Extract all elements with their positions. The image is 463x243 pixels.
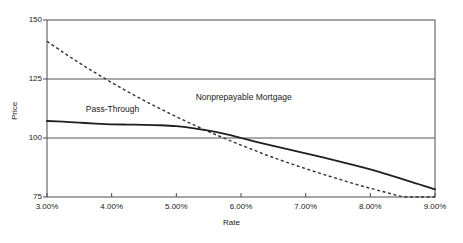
y-tick-label: 125 [18, 74, 42, 83]
x-tick-label: 9.00% [411, 202, 459, 211]
x-tick-marks [47, 193, 435, 197]
y-tick-marks [43, 20, 47, 197]
series-line-nonprepayable-mortgage [47, 41, 435, 197]
x-tick-label: 7.00% [282, 202, 330, 211]
series-annotation: Nonprepayable Mortgage [196, 92, 292, 102]
x-tick-label: 6.00% [217, 202, 265, 211]
y-tick-label: 100 [18, 133, 42, 142]
series-line-pass-through [47, 121, 435, 189]
x-tick-label: 5.00% [152, 202, 200, 211]
x-axis-title: Rate [0, 218, 463, 227]
y-axis-title: Price [10, 102, 19, 120]
y-tick-label: 75 [18, 192, 42, 201]
x-tick-label: 4.00% [88, 202, 136, 211]
y-tick-label: 150 [18, 15, 42, 24]
price-vs-rate-chart: Price Rate 15012510075 3.00%4.00%5.00%6.… [0, 0, 463, 243]
x-tick-label: 3.00% [23, 202, 71, 211]
series-annotation: Pass-Through [86, 104, 139, 114]
x-tick-label: 8.00% [346, 202, 394, 211]
